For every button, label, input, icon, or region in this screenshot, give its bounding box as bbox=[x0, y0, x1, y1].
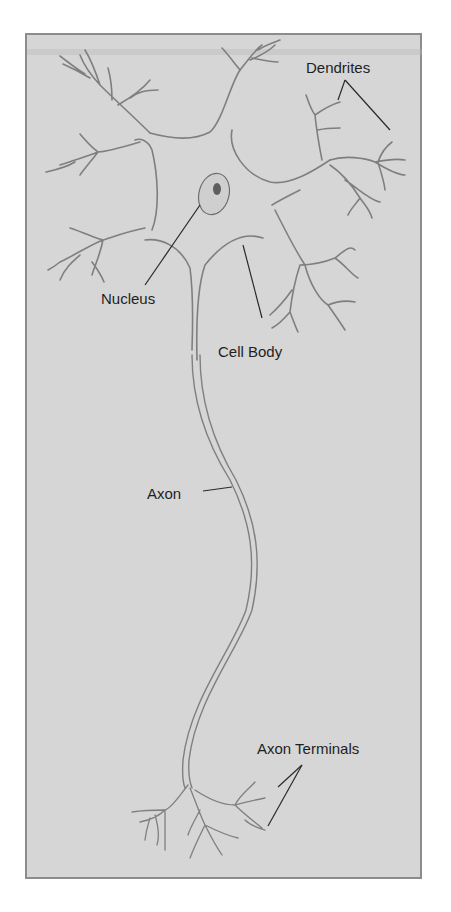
cell-body-outline bbox=[135, 70, 330, 360]
dendrite bbox=[46, 134, 140, 175]
axon-terminals-leader bbox=[278, 765, 302, 787]
axon-terminals-leader bbox=[268, 765, 302, 826]
axon-terminals bbox=[132, 782, 265, 858]
axon bbox=[183, 355, 258, 788]
dendrite bbox=[48, 228, 145, 282]
label-nucleus: Nucleus bbox=[101, 291, 155, 306]
label-cell-body: Cell Body bbox=[218, 344, 282, 359]
nucleus-leader bbox=[145, 205, 200, 285]
nucleus bbox=[194, 170, 234, 218]
label-axon: Axon bbox=[147, 486, 181, 501]
neuron-illustration bbox=[0, 0, 451, 912]
dendrite bbox=[222, 40, 280, 70]
nucleolus bbox=[213, 183, 221, 195]
dendrites-leader bbox=[345, 80, 390, 130]
label-dendrites: Dendrites bbox=[306, 60, 370, 75]
label-axon-terminals: Axon Terminals bbox=[257, 741, 359, 756]
dendrite bbox=[270, 248, 358, 332]
dendrite bbox=[60, 50, 158, 133]
cell-body-leader bbox=[243, 245, 262, 318]
dendrites-leader bbox=[338, 80, 345, 100]
dendrite bbox=[306, 95, 405, 218]
axon-leader bbox=[203, 487, 232, 491]
